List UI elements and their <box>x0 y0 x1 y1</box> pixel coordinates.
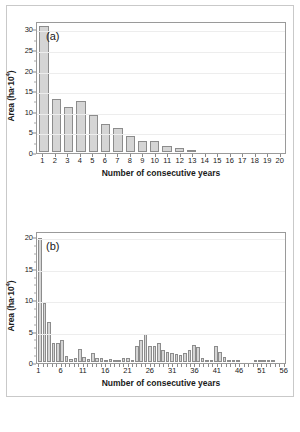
bar <box>187 150 196 152</box>
y-axis-tick-mark <box>33 364 36 365</box>
x-axis-tick-label: 31 <box>168 367 176 375</box>
gridline <box>37 31 285 32</box>
x-axis-tick-label: 9 <box>140 157 144 165</box>
x-axis-tick-mark <box>47 364 48 367</box>
bar <box>150 141 159 152</box>
x-axis-tick-label: 16 <box>226 157 234 165</box>
gridline <box>37 52 285 53</box>
x-axis-tick-label: 1 <box>36 367 40 375</box>
panel-a-y-axis-label-text: Area (ha·10 <box>6 76 16 121</box>
x-axis-tick-label: 56 <box>280 367 288 375</box>
x-axis-tick-mark <box>96 364 97 367</box>
x-axis-tick-label: 21 <box>123 367 131 375</box>
x-axis-tick-mark <box>253 364 254 367</box>
x-axis-tick-mark <box>65 364 66 367</box>
bar-slot <box>279 234 283 362</box>
bar <box>76 101 85 152</box>
x-axis-tick-mark <box>208 364 209 367</box>
gridline <box>37 302 285 303</box>
panel-b-y-axis-label-tail: ) <box>6 280 16 283</box>
x-axis-tick-label: 16 <box>101 367 109 375</box>
bar-slot <box>198 24 210 152</box>
y-axis-tick-label: 10 <box>25 109 33 117</box>
y-axis-minor-tick <box>34 277 36 278</box>
bar-slot <box>173 24 185 152</box>
panel-b-y-axis-label: Area (ha·104) <box>5 236 19 376</box>
y-axis-tick-mark <box>33 269 36 270</box>
gridline <box>37 239 285 240</box>
bar-slot <box>63 24 75 152</box>
panel-a-y-axis-label-tail: ) <box>6 70 16 73</box>
y-axis-tick-label: 30 <box>25 27 33 35</box>
gridline <box>37 114 285 115</box>
bar-slot <box>75 24 87 152</box>
x-axis-tick-mark <box>119 364 120 367</box>
x-axis-tick-mark <box>221 364 222 367</box>
x-axis-tick-label: 7 <box>115 157 119 165</box>
x-axis-tick-label: 6 <box>103 157 107 165</box>
x-axis-tick-label: 17 <box>238 157 246 165</box>
y-axis-minor-tick <box>34 143 36 144</box>
x-axis-tick-mark <box>275 364 276 367</box>
bar-slot <box>259 24 271 152</box>
y-axis-minor-tick <box>34 348 36 349</box>
y-axis-minor-tick <box>34 285 36 286</box>
x-axis-tick-label: 4 <box>78 157 82 165</box>
bar-slot <box>149 24 161 152</box>
x-axis-tick-label: 10 <box>151 157 159 165</box>
bar <box>162 146 171 152</box>
bar-slot <box>186 24 198 152</box>
x-axis-tick-mark <box>186 364 187 367</box>
y-axis-tick-label: 20 <box>25 68 33 76</box>
x-axis-tick-label: 15 <box>213 157 221 165</box>
bar-slot <box>112 24 124 152</box>
x-axis-tick-mark <box>136 364 137 367</box>
y-axis-tick-mark <box>33 92 36 93</box>
x-axis-tick-mark <box>199 364 200 367</box>
bar <box>138 141 147 152</box>
bar <box>52 99 61 152</box>
bar-slot <box>210 24 222 152</box>
y-axis-tick-mark <box>33 71 36 72</box>
x-axis-tick-mark <box>248 364 249 367</box>
x-axis-tick-mark <box>203 364 204 367</box>
panel-a-bar-series <box>38 24 284 152</box>
panel-a-x-axis-label: Number of consecutive years <box>36 168 286 178</box>
y-axis-minor-tick <box>34 316 36 317</box>
y-axis-tick-label: 20 <box>25 235 33 243</box>
y-axis-minor-tick <box>34 61 36 62</box>
panel-a-plot-wrap: 0510152025301234567891011121314151617181… <box>36 22 286 154</box>
y-axis-tick-mark <box>33 30 36 31</box>
chart-panel-b: Area (ha·104) 05101520161116212631364146… <box>0 218 300 418</box>
y-axis-minor-tick <box>34 293 36 294</box>
y-axis-tick-label: 15 <box>25 88 33 96</box>
gridline <box>37 134 285 135</box>
bar-slot <box>136 24 148 152</box>
x-axis-tick-label: 5 <box>90 157 94 165</box>
x-axis-tick-label: 1 <box>40 157 44 165</box>
x-axis-tick-mark <box>159 364 160 367</box>
y-axis-tick-mark <box>33 154 36 155</box>
x-axis-tick-mark <box>43 364 44 367</box>
y-axis-tick-label: 15 <box>25 266 33 274</box>
y-axis-tick-mark <box>33 301 36 302</box>
figure-root: Area (ha·104) 05101520253012345678910111… <box>0 0 300 432</box>
x-axis-tick-label: 46 <box>235 367 243 375</box>
bar <box>101 124 110 152</box>
y-axis-minor-tick <box>34 40 36 41</box>
y-axis-minor-tick <box>34 246 36 247</box>
y-axis-tick-mark <box>33 50 36 51</box>
x-axis-tick-label: 18 <box>251 157 259 165</box>
x-axis-tick-mark <box>52 364 53 367</box>
x-axis-tick-mark <box>56 364 57 367</box>
gridline <box>37 334 285 335</box>
bar-slot <box>87 24 99 152</box>
bar-slot <box>99 24 111 152</box>
panel-b-plot-wrap: 051015201611162126313641465156 Number of… <box>36 232 286 364</box>
bar-slot <box>50 24 62 152</box>
panel-b-x-axis-label: Number of consecutive years <box>36 378 286 388</box>
bar-slot <box>161 24 173 152</box>
y-axis-tick-label: 25 <box>25 47 33 55</box>
y-axis-minor-tick <box>34 102 36 103</box>
x-axis-tick-mark <box>87 364 88 367</box>
